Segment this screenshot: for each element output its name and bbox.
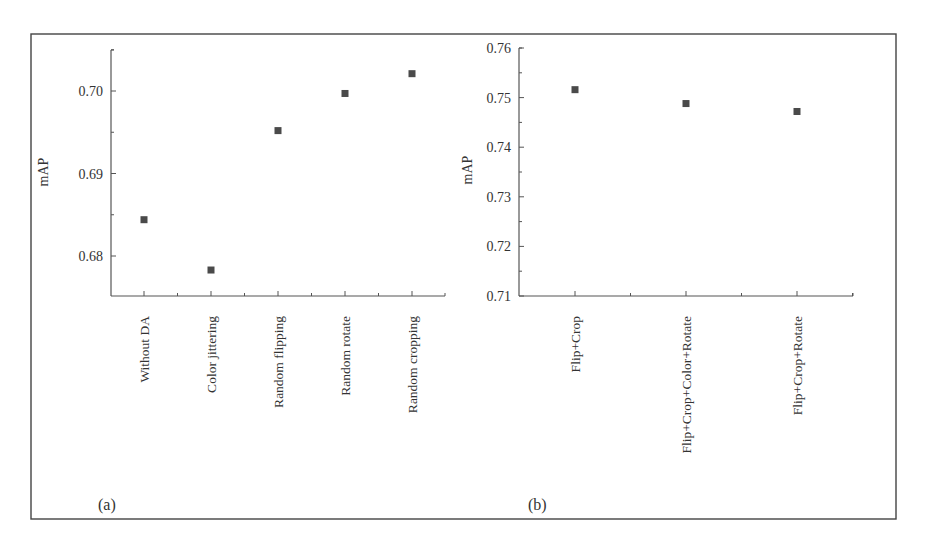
x-category-label: Random rotate [338, 316, 353, 396]
y-tick-label: 0.69 [79, 167, 104, 182]
x-category-label: Without DA [137, 316, 152, 383]
panel-label: (a) [98, 496, 116, 514]
y-tick-label: 0.71 [487, 289, 512, 304]
x-category-label: Flip+Crop+Rotate [790, 316, 805, 415]
data-point-marker [208, 267, 215, 274]
y-tick-label: 0.70 [79, 84, 104, 99]
y-tick-label: 0.73 [487, 190, 512, 205]
figure: 0.680.690.70Without DAColor jitteringRan… [0, 0, 929, 547]
data-point-marker [794, 108, 801, 115]
x-category-label: Flip+Crop+Color+Rotate [679, 316, 694, 454]
y-tick-label: 0.75 [487, 91, 512, 106]
y-tick-label: 0.68 [79, 249, 104, 264]
data-point-marker [572, 86, 579, 93]
x-category-label: Flip+Crop [568, 316, 583, 373]
y-axis-title: mAP [36, 157, 51, 186]
figure-canvas: 0.680.690.70Without DAColor jitteringRan… [0, 0, 929, 547]
data-point-marker [275, 127, 282, 134]
panel-label: (b) [528, 496, 547, 514]
y-tick-label: 0.74 [487, 140, 512, 155]
x-category-label: Random cropping [405, 316, 420, 413]
data-point-marker [342, 90, 349, 97]
panel-b-chart: 0.710.720.730.740.750.76Flip+CropFlip+Cr… [460, 41, 853, 514]
x-category-label: Random flipping [271, 316, 286, 408]
data-point-marker [409, 70, 416, 77]
data-point-marker [141, 216, 148, 223]
figure-frame [31, 34, 896, 519]
y-axis-title: mAP [460, 155, 475, 184]
data-point-marker [683, 100, 690, 107]
x-category-label: Color jittering [204, 316, 219, 393]
y-tick-label: 0.76 [487, 41, 512, 56]
panel-a-chart: 0.680.690.70Without DAColor jitteringRan… [36, 50, 445, 514]
y-tick-label: 0.72 [487, 239, 512, 254]
